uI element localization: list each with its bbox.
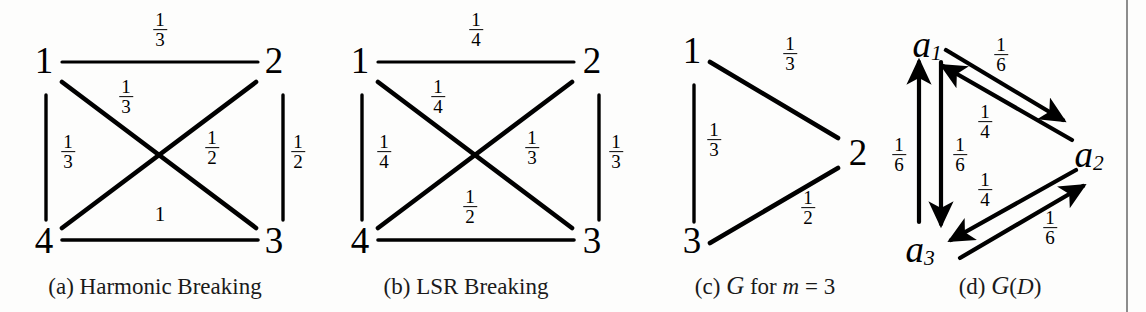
edge-weight-1-2: 1 3	[153, 10, 167, 50]
weight-numerator: 1	[61, 132, 75, 151]
weight-denominator: 3	[707, 140, 721, 160]
edge-weight-1-2: 1 3	[783, 34, 797, 74]
weight-numerator: 1	[707, 120, 721, 139]
figure-container: 1 2 4 3 1 3 1 3 1 2 1 3 1 2 1 (a) Harmon…	[0, 0, 1146, 312]
caption-italic-m: m	[783, 274, 800, 299]
weight-denominator: 2	[463, 207, 477, 227]
weight-denominator: 2	[205, 148, 219, 168]
edge-weight-3-2: 1 2	[801, 188, 815, 228]
edge-weight-a3-a1: 1 6	[892, 135, 906, 175]
edge-arrow-a2-a3	[951, 170, 1076, 240]
edge-weight-1-3: 1 3	[707, 120, 721, 160]
node-label: a	[912, 24, 931, 65]
edge-weight-a2-a3: 1 4	[978, 170, 992, 210]
edge-weight-1-4: 1 3	[61, 132, 75, 172]
panel-c-caption: (c) G for m = 3	[695, 272, 835, 300]
weight-denominator: 3	[153, 30, 167, 50]
weight-denominator: 6	[892, 155, 906, 175]
node-3: 3	[583, 222, 602, 259]
node-subscript: 3	[924, 246, 935, 270]
edge-weight-a2-a1: 1 4	[978, 102, 992, 142]
node-4: 4	[35, 222, 54, 259]
weight-numerator: 1	[783, 34, 797, 53]
edge-weight-a3-a2: 1 6	[1043, 208, 1057, 248]
weight-numerator: 1	[153, 204, 168, 225]
weight-denominator: 3	[609, 152, 623, 172]
node-a1: a1	[912, 26, 941, 65]
weight-numerator: 1	[377, 132, 391, 151]
node-1: 1	[35, 42, 54, 79]
weight-denominator: 4	[377, 152, 391, 172]
weight-numerator: 1	[119, 77, 133, 96]
node-a3: a3	[905, 231, 934, 270]
caption-script-g: G	[991, 272, 1009, 299]
node-4: 4	[351, 222, 370, 259]
caption-prefix: (c)	[695, 274, 726, 299]
weight-numerator: 1	[469, 10, 483, 29]
edge-line-1-2	[710, 62, 838, 138]
panel-d-caption: (d) G(D)	[959, 272, 1042, 300]
right-edge-divider	[1126, 0, 1128, 312]
caption-mid: for	[744, 274, 782, 299]
node-2: 2	[849, 134, 868, 171]
node-3: 3	[683, 222, 702, 259]
edge-weight-1-2: 1 4	[469, 10, 483, 50]
caption-prefix: (d)	[959, 274, 992, 299]
panel-b-lsr-breaking: 1 2 4 3 1 4 1 4 1 3 1 4 1 3 1 2 (b) LSR …	[316, 0, 628, 312]
node-a2: a2	[1074, 136, 1103, 175]
edge-weight-1-4: 1 4	[377, 132, 391, 172]
node-label: a	[1074, 134, 1093, 175]
caption-suffix: )	[1034, 274, 1042, 299]
panel-c-graph-for-m3: 1 2 3 1 3 1 3 1 2 (c) G for m = 3	[640, 0, 890, 312]
weight-denominator: 4	[978, 190, 992, 210]
edge-weight-2-3: 1 2	[291, 132, 305, 172]
weight-numerator: 1	[153, 10, 167, 29]
node-1: 1	[683, 32, 702, 69]
weight-denominator: 4	[431, 97, 445, 117]
caption-suffix: = 3	[799, 274, 835, 299]
edge-arrow-a2-a1	[943, 66, 1072, 140]
edge-weight-1-3: 1 4	[431, 77, 445, 117]
edge-weight-4-3: 1 2	[463, 187, 477, 227]
weight-denominator: 2	[291, 152, 305, 172]
panel-b-caption: (b) LSR Breaking	[384, 274, 549, 300]
weight-denominator: 6	[994, 55, 1008, 75]
node-subscript: 2	[1093, 151, 1104, 175]
edge-weight-a1-a3: 1 6	[953, 135, 967, 175]
panel-a-caption: (a) Harmonic Breaking	[48, 274, 261, 300]
weight-denominator: 6	[1043, 228, 1057, 248]
node-1: 1	[351, 42, 370, 79]
weight-numerator: 1	[525, 128, 539, 147]
weight-denominator: 3	[119, 97, 133, 117]
weight-numerator: 1	[801, 188, 815, 207]
weight-denominator: 2	[801, 208, 815, 228]
panel-d-graph-of-d: a1 a2 a3 1 6 1 4 1 6 1 6 1 4 1 6	[880, 0, 1120, 312]
weight-denominator: 6	[953, 155, 967, 175]
weight-numerator: 1	[431, 77, 445, 96]
weight-numerator: 1	[609, 132, 623, 151]
weight-denominator: 4	[978, 122, 992, 142]
weight-denominator: 3	[61, 152, 75, 172]
edge-weight-2-3: 1 3	[609, 132, 623, 172]
node-3: 3	[265, 222, 284, 259]
node-2: 2	[583, 42, 602, 79]
weight-numerator: 1	[994, 35, 1008, 54]
node-2: 2	[265, 42, 284, 79]
edge-weight-2-4: 1 2	[205, 128, 219, 168]
weight-denominator: 3	[783, 54, 797, 74]
edge-line-3-2	[710, 168, 838, 243]
node-subscript: 1	[931, 41, 942, 65]
weight-numerator: 1	[1043, 208, 1057, 227]
edge-weight-1-3: 1 3	[119, 77, 133, 117]
weight-numerator: 1	[291, 132, 305, 151]
weight-denominator: 3	[525, 148, 539, 168]
edge-weight-2-4: 1 3	[525, 128, 539, 168]
node-label: a	[905, 229, 924, 270]
caption-script-g: G	[726, 272, 744, 299]
weight-numerator: 1	[978, 170, 992, 189]
weight-denominator: 4	[469, 30, 483, 50]
weight-numerator: 1	[463, 187, 477, 206]
weight-numerator: 1	[953, 135, 967, 154]
panel-a-harmonic-breaking: 1 2 4 3 1 3 1 3 1 2 1 3 1 2 1 (a) Harmon…	[0, 0, 310, 312]
edge-weight-a1-a2: 1 6	[994, 35, 1008, 75]
